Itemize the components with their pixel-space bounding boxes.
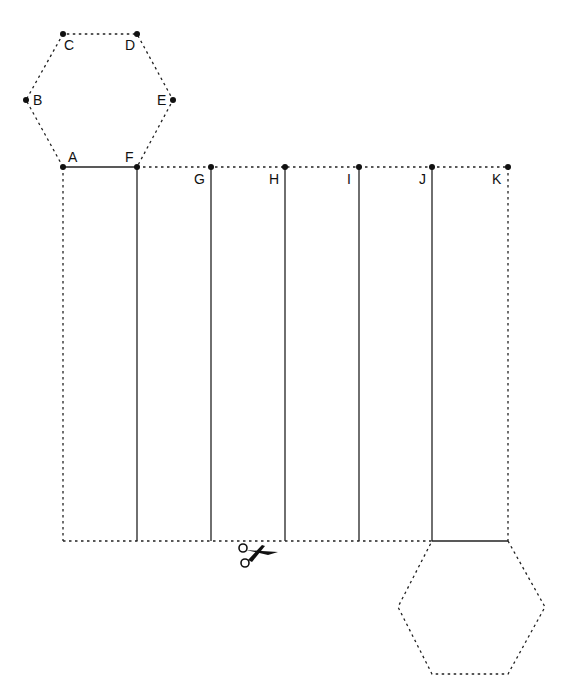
label-D: D	[125, 37, 135, 53]
label-B: B	[33, 92, 42, 108]
scissors-icon	[239, 544, 278, 567]
label-J: J	[419, 171, 426, 187]
label-K: K	[492, 171, 502, 187]
label-F: F	[125, 149, 134, 165]
label-H: H	[269, 171, 279, 187]
lateral-rectangle	[63, 167, 508, 541]
label-C: C	[64, 37, 74, 53]
label-I: I	[347, 171, 351, 187]
label-G: G	[194, 171, 205, 187]
label-E: E	[157, 92, 166, 108]
bottom-hexagon	[398, 541, 545, 674]
top-hexagon	[26, 34, 173, 167]
prism-net-diagram: C D B E A F G H I J K	[0, 0, 572, 698]
vertex-dots	[23, 31, 511, 170]
label-A: A	[68, 149, 78, 165]
